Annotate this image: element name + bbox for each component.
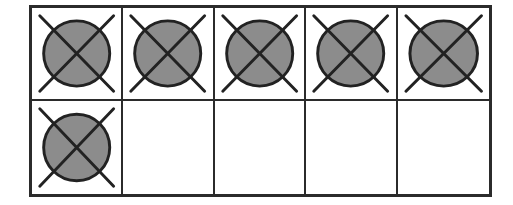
ten-frame-cell-filled (123, 8, 214, 101)
crossed-out-circle-icon (32, 101, 121, 194)
crossed-out-circle-icon (398, 8, 489, 99)
ten-frame (29, 5, 492, 197)
ten-frame-cell-filled (398, 8, 489, 101)
ten-frame-cell-filled (215, 8, 306, 101)
ten-frame-cell-filled (306, 8, 397, 101)
ten-frame-cell-filled (32, 101, 123, 194)
crossed-out-circle-icon (306, 8, 395, 99)
crossed-out-circle-icon (32, 8, 121, 99)
ten-frame-cell-empty (398, 101, 489, 194)
ten-frame-cell-filled (32, 8, 123, 101)
ten-frame-cell-empty (215, 101, 306, 194)
ten-frame-cell-empty (123, 101, 214, 194)
crossed-out-circle-icon (123, 8, 212, 99)
crossed-out-circle-icon (215, 8, 304, 99)
ten-frame-cell-empty (306, 101, 397, 194)
